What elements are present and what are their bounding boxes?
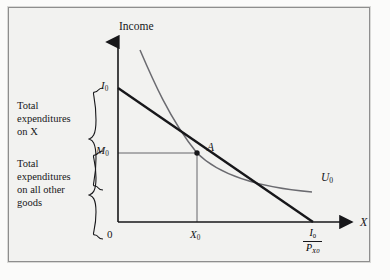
x-intercept-fraction: I0 PX0: [303, 228, 322, 255]
fraction-denominator: PX0: [303, 243, 322, 255]
budget-line: [118, 88, 313, 222]
y-intercept-label-i0: I0: [101, 80, 108, 93]
brace-upper-line3: on X: [17, 125, 89, 138]
u0-subscript: 0: [329, 176, 333, 185]
origin-label: 0: [107, 229, 113, 240]
m0-subscript: 0: [105, 150, 109, 158]
fraction-denominator-subscript: X0: [312, 247, 319, 254]
x0-label: X0: [190, 229, 200, 242]
indifference-curve-label: U0: [321, 172, 333, 185]
brace-lower-line4: goods: [17, 196, 93, 209]
brace-lower-line3: on all other: [17, 183, 93, 196]
tangency-point-label: A: [207, 142, 214, 154]
x0-subscript: 0: [197, 234, 201, 242]
brace-label-upper: Total expenditures on X: [17, 99, 89, 138]
brace-upper-line3-text: on X: [17, 126, 38, 137]
m0-label: M0: [96, 145, 109, 158]
figure-container: Income X I0 M0 0 X0 A U0 I0 PX0 Total ex…: [0, 0, 390, 280]
brace-label-lower: Total expenditures on all other goods: [17, 157, 93, 210]
fraction-numerator: I0: [303, 228, 322, 240]
fraction-numerator-subscript: 0: [313, 232, 316, 239]
y-axis-label: Income: [119, 21, 153, 33]
tangency-point-a: [194, 150, 199, 155]
brace-lower-line1: Total: [17, 157, 93, 170]
x-axis-label: X: [360, 216, 367, 228]
brace-lower-line2: expenditures: [17, 170, 93, 183]
m0-letter: M: [96, 144, 105, 156]
x0-letter: X: [190, 228, 197, 240]
brace-upper-line1: Total: [17, 99, 89, 112]
y-intercept-subscript: 0: [105, 85, 109, 93]
brace-upper-line2: expenditures: [17, 112, 89, 125]
